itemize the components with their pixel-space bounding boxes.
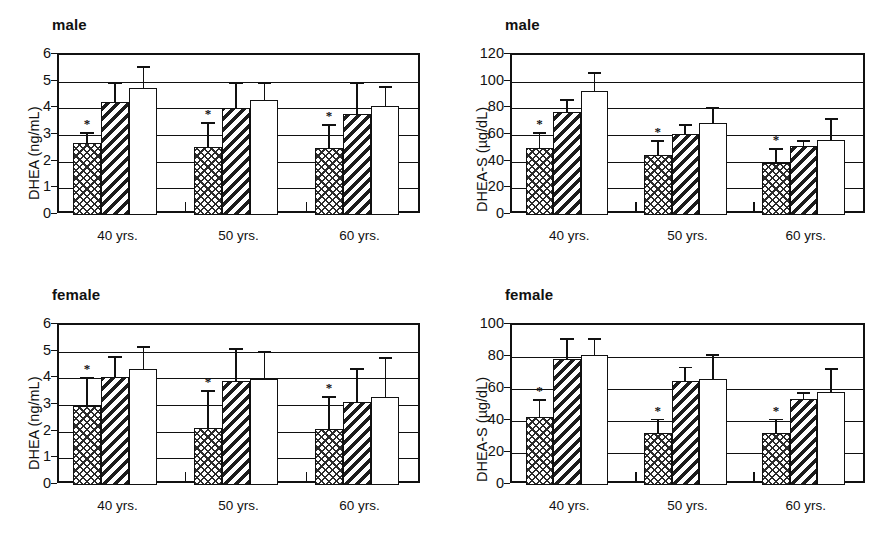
- bar-cross-hatch-40yrs: [526, 148, 554, 215]
- error-bar-stem: [566, 338, 568, 359]
- bar-open-40yrs: [129, 369, 157, 485]
- y-tick-mark: [504, 387, 510, 388]
- error-bar-stem: [143, 346, 145, 369]
- bar-diagonal-hatch-60yrs: [790, 399, 818, 485]
- y-tick-label: 80: [462, 98, 504, 114]
- error-bar: [797, 140, 810, 145]
- y-tick-mark: [51, 430, 57, 431]
- error-bar: [797, 392, 810, 398]
- y-tick-label: 6: [9, 315, 51, 331]
- y-tick-mark: [51, 186, 57, 187]
- bar-diagonal-hatch-40yrs: [553, 112, 581, 215]
- error-bar-stem: [539, 132, 541, 148]
- bar-open-50yrs: [699, 123, 727, 215]
- y-tick-mark: [51, 323, 57, 324]
- y-tick-mark: [504, 451, 510, 452]
- y-tick-mark: [51, 133, 57, 134]
- error-bar-stem: [712, 107, 714, 123]
- bar-cross-hatch-60yrs: [762, 433, 790, 485]
- error-bar-stem: [356, 368, 358, 403]
- error-bar-cap: [322, 396, 336, 398]
- y-tick-label: 5: [9, 342, 51, 358]
- error-bar-cap: [706, 107, 719, 109]
- y-tick-mark: [504, 53, 510, 54]
- y-tick-mark: [504, 80, 510, 81]
- error-bar: [706, 107, 719, 123]
- bar-cross-hatch-50yrs: [194, 428, 222, 485]
- bar-diagonal-hatch-40yrs: [553, 359, 581, 485]
- y-tick-label: 100: [462, 315, 504, 331]
- x-category-label: 50 yrs.: [178, 498, 299, 513]
- error-bar-stem: [830, 368, 832, 392]
- error-bar: [322, 124, 336, 149]
- y-tick-label: 40: [462, 152, 504, 168]
- y-tick-label: 20: [462, 178, 504, 194]
- error-bar: [258, 82, 272, 101]
- error-bar: [229, 348, 243, 381]
- y-tick-label: 0: [462, 205, 504, 221]
- error-bar-stem: [235, 348, 237, 381]
- error-bar-cap: [560, 338, 573, 340]
- error-bar-cap: [322, 124, 336, 126]
- error-bar: [379, 86, 393, 106]
- error-bar-cap: [797, 392, 810, 394]
- error-bar-cap: [379, 357, 393, 359]
- x-category-label: 50 yrs.: [628, 498, 746, 513]
- error-bar-stem: [594, 72, 596, 91]
- error-bar: [533, 399, 546, 417]
- y-tick-label: 120: [462, 45, 504, 61]
- error-bar: [651, 140, 664, 155]
- y-tick-mark: [51, 213, 57, 214]
- bar-open-40yrs: [129, 88, 157, 215]
- error-bar: [108, 356, 122, 377]
- y-tick-label: 60: [462, 125, 504, 141]
- significance-asterisk: *: [526, 384, 554, 397]
- error-bar: [651, 419, 664, 433]
- bar-cross-hatch-60yrs: [315, 148, 343, 215]
- y-tick-label: 100: [462, 72, 504, 88]
- error-bar-cap: [533, 132, 546, 134]
- error-bar: [825, 368, 838, 392]
- y-tick-label: 80: [462, 347, 504, 363]
- bar-diagonal-hatch-50yrs: [222, 108, 250, 215]
- error-bar-cap: [258, 82, 272, 84]
- significance-asterisk: *: [194, 375, 222, 388]
- error-bar: [679, 124, 692, 133]
- significance-asterisk: *: [526, 117, 554, 130]
- x-category-label: 60 yrs.: [299, 228, 420, 243]
- error-bar: [769, 419, 782, 433]
- error-bar-stem: [385, 357, 387, 397]
- bar-cross-hatch-40yrs: [526, 417, 554, 485]
- y-tick-mark: [51, 456, 57, 457]
- error-bar-cap: [108, 356, 122, 358]
- error-bar-cap: [379, 86, 393, 88]
- error-bar-stem: [207, 390, 209, 427]
- error-bar-stem: [775, 419, 777, 433]
- bar-open-50yrs: [250, 100, 278, 215]
- error-bar: [137, 66, 151, 89]
- bar-cross-hatch-60yrs: [315, 429, 343, 485]
- error-bar: [588, 72, 601, 91]
- error-bar-stem: [114, 356, 116, 377]
- y-tick-mark: [504, 419, 510, 420]
- panel-title: female: [52, 286, 100, 303]
- error-bar: [379, 357, 393, 397]
- group-separator-tick: [306, 472, 308, 481]
- error-bar: [201, 390, 215, 427]
- significance-asterisk: *: [644, 125, 672, 138]
- error-bar-cap: [651, 419, 664, 421]
- y-tick-label: 1: [9, 448, 51, 464]
- y-tick-label: 40: [462, 411, 504, 427]
- error-bar-stem: [594, 338, 596, 356]
- error-bar-cap: [769, 148, 782, 150]
- y-tick-label: 20: [462, 443, 504, 459]
- error-bar-stem: [328, 396, 330, 429]
- y-tick-label: 3: [9, 125, 51, 141]
- y-tick-label: 4: [9, 368, 51, 384]
- y-tick-label: 5: [9, 72, 51, 88]
- error-bar: [229, 82, 243, 109]
- bar-open-60yrs: [371, 397, 399, 485]
- x-category-label: 40 yrs.: [510, 498, 628, 513]
- y-tick-label: 1: [9, 178, 51, 194]
- error-bar: [350, 82, 364, 114]
